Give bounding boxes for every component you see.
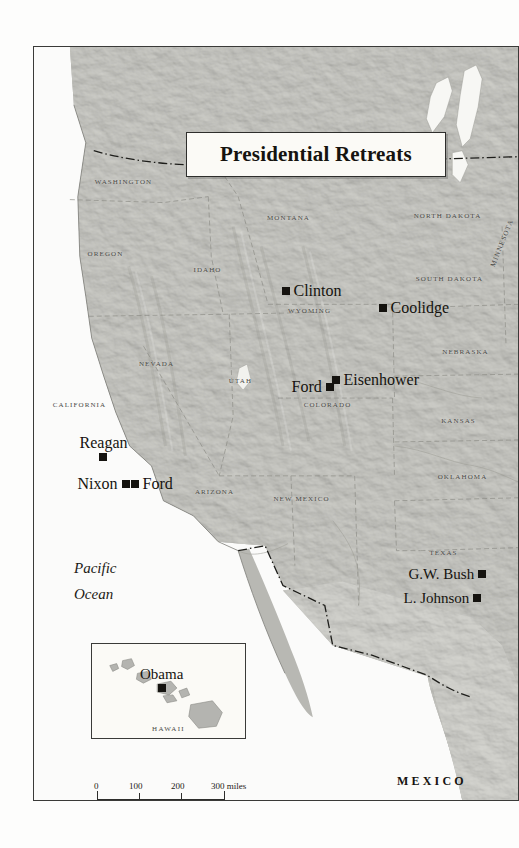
retreat-marker-coolidge [379,304,387,312]
retreat-label-clinton: Clinton [294,282,342,300]
map-title: Presidential Retreats [220,142,412,167]
retreat-marker-clinton [282,287,290,295]
hawaii-inset-box: Obama HAWAII [91,643,246,739]
retreat-marker-ford [131,480,139,488]
scale-tick-mi-300 [224,791,225,800]
retreat-g-w-bush[interactable]: G.W. Bush [409,566,487,583]
ocean-label-line-2: Ocean [74,581,116,607]
state-label-washington: WASHINGTON [95,178,153,186]
retreat-l-johnson[interactable]: L. Johnson [404,590,482,607]
state-label-south-dakota: SOUTH DAKOTA [416,274,483,283]
retreat-marker-obama [158,684,166,692]
state-label-nevada: NEVADA [139,360,174,368]
scale-label-mi-200: 200 [171,781,185,791]
retreat-label-l-johnson: L. Johnson [404,590,470,607]
state-label-idaho: IDAHO [193,266,221,274]
map-frame: WASHINGTONOREGONIDAHOMONTANANEVADAUTAHCA… [33,46,519,801]
retreat-label-obama: Obama [140,666,183,682]
scale-bar-line [97,799,225,801]
retreat-nixon[interactable]: Nixon [78,475,130,493]
retreat-ford[interactable]: Ford [292,378,334,396]
retreat-ford[interactable]: Ford [131,475,173,493]
scale-tick-mi-100 [139,793,140,800]
state-label-montana: MONTANA [267,214,310,222]
state-label-wyoming: WYOMING [288,307,331,315]
retreat-marker-l-johnson [473,594,481,602]
retreat-clinton[interactable]: Clinton [282,282,342,300]
state-label-oregon: OREGON [88,250,124,258]
map-page: WASHINGTONOREGONIDAHOMONTANANEVADAUTAHCA… [0,0,519,848]
scale-bar: 0 100 200 300 miles 0 200 400 kilometers [89,781,264,801]
retreat-label-coolidge: Coolidge [391,299,450,317]
retreat-marker-reagan [99,453,107,461]
retreat-reagan[interactable]: Reagan [80,434,128,461]
retreat-obama[interactable]: Obama [140,666,183,692]
scale-tick-km-200 [150,800,151,801]
retreat-label-eisenhower: Eisenhower [344,371,420,389]
state-label-arizona: ARIZONA [195,488,234,496]
retreat-label-g-w-bush: G.W. Bush [409,566,475,583]
scale-tick-km-400 [203,800,204,801]
state-label-new-mexico: NEW MEXICO [273,495,329,503]
scale-tick-km-0 [97,800,98,801]
scale-tick-mi-200 [181,793,182,800]
state-label-north-dakota: NORTH DAKOTA [414,211,482,220]
scale-label-mi-100: 100 [129,781,143,791]
scale-label-mi-0: 0 [94,781,99,791]
ocean-label-line-1: Pacific [74,555,116,581]
retreat-label-ford: Ford [292,378,322,396]
state-label-texas: TEXAS [429,549,457,557]
retreat-eisenhower[interactable]: Eisenhower [332,371,420,389]
state-label-kansas: KANSAS [441,417,476,425]
retreat-label-reagan: Reagan [80,434,128,451]
state-label-california: CALIFORNIA [53,401,106,409]
state-label-utah: UTAH [229,377,252,385]
state-label-colorado: COLORADO [304,401,352,409]
retreat-marker-g-w-bush [478,570,486,578]
retreat-coolidge[interactable]: Coolidge [379,299,450,317]
pacific-ocean-label: Pacific Ocean [74,555,116,607]
map-title-box: Presidential Retreats [186,132,446,177]
scale-tick-mi-0 [97,791,98,800]
mexico-country-label: MEXICO [397,774,467,789]
state-label-nebraska: NEBRASKA [442,348,489,356]
retreat-marker-ford [326,383,334,391]
hawaii-caption: HAWAII [92,725,245,733]
state-label-oklahoma: OKLAHOMA [438,473,488,481]
scale-label-mi-300: 300 miles [211,781,246,791]
retreat-label-nixon: Nixon [78,475,118,493]
retreat-label-ford: Ford [143,475,173,493]
retreat-marker-nixon [122,480,130,488]
